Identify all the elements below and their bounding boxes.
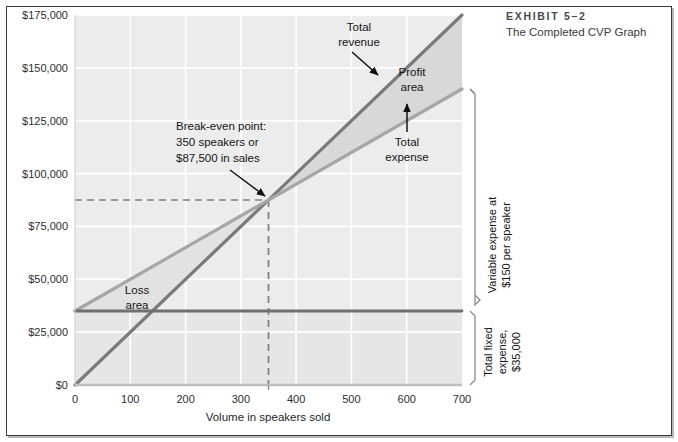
breakeven-label-line3: $87,500 in sales bbox=[176, 152, 260, 164]
total-expense-label-line1: Total bbox=[395, 136, 419, 148]
variable-bracket-top-tip bbox=[470, 89, 475, 94]
total-revenue-label-line2: revenue bbox=[338, 36, 380, 48]
fixed-expense-bracket bbox=[470, 311, 475, 385]
x-tick-300: 300 bbox=[232, 393, 250, 405]
y-tick-125000: $125,000 bbox=[22, 115, 68, 127]
y-tick-50000: $50,000 bbox=[28, 273, 68, 285]
profit-area-label-line1: Profit bbox=[399, 66, 427, 78]
x-tick-100: 100 bbox=[121, 393, 139, 405]
fixed-expense-bracket-label-line1: Total fixed bbox=[482, 327, 494, 377]
y-tick-75000: $75,000 bbox=[28, 220, 68, 232]
breakeven-label-line1: Break-even point: bbox=[176, 120, 266, 132]
x-axis-title: Volume in speakers sold bbox=[206, 411, 331, 423]
variable-expense-bracket bbox=[470, 89, 480, 305]
x-tick-400: 400 bbox=[287, 393, 305, 405]
x-tick-200: 200 bbox=[176, 393, 194, 405]
x-tick-500: 500 bbox=[342, 393, 360, 405]
total-expense-label-line2: expense bbox=[385, 151, 428, 163]
cvp-chart: $175,000 $150,000 $125,000 $100,000 $75,… bbox=[0, 0, 678, 442]
y-tick-150000: $150,000 bbox=[22, 62, 68, 74]
loss-area-label-line1: Loss bbox=[125, 284, 150, 296]
loss-area-label-line2: area bbox=[125, 299, 149, 311]
variable-expense-bracket-label-line2: $150 per speaker bbox=[500, 202, 512, 288]
breakeven-label-line2: 350 speakers or bbox=[176, 136, 259, 148]
y-tick-0: $0 bbox=[56, 379, 68, 391]
profit-area-label-line2: area bbox=[400, 81, 424, 93]
fixed-expense-bracket-label-line2: expense, bbox=[496, 330, 508, 375]
total-revenue-label-line1: Total bbox=[347, 21, 371, 33]
x-tick-700: 700 bbox=[453, 393, 471, 405]
y-tick-25000: $25,000 bbox=[28, 326, 68, 338]
variable-expense-bracket-label-line1: Variable expense at bbox=[486, 197, 498, 293]
x-tick-0: 0 bbox=[72, 393, 78, 405]
cvp-graph-figure: EXHIBIT 5–2 The Completed CVP Graph bbox=[0, 0, 678, 442]
fixed-expense-bracket-label-line3: $35,000 bbox=[510, 332, 522, 372]
x-tick-600: 600 bbox=[398, 393, 416, 405]
y-tick-175000: $175,000 bbox=[22, 9, 68, 21]
y-tick-100000: $100,000 bbox=[22, 168, 68, 180]
